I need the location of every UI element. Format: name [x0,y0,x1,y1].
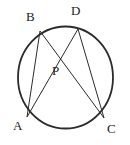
point-label-c: C [107,122,116,135]
point-label-b: B [26,10,35,23]
chord-b-c [40,31,104,118]
point-label-p: P [52,64,59,77]
point-label-a: A [13,119,22,132]
point-label-d: D [71,4,80,17]
circle-outline [18,27,113,129]
geometry-figure: B D P A C [0,0,130,145]
